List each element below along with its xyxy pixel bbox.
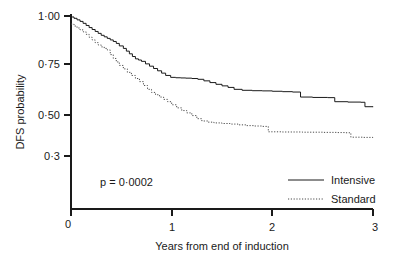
y-tick-label-2: 0·50 <box>38 109 60 121</box>
series-line-intensive <box>71 17 373 107</box>
y-tick-label-3: 0·3 <box>44 150 60 162</box>
x-tick-label-2: 2 <box>269 221 275 233</box>
y-axis-title: DFS probability <box>14 74 26 150</box>
x-axis-ticks: 0 1 2 3 <box>65 209 378 233</box>
y-axis-ticks: 1·00 0·75 0·50 0·3 <box>38 10 71 162</box>
legend-label-standard: Standard <box>331 193 376 205</box>
y-tick-label-1: 0·75 <box>38 58 60 70</box>
x-axis-title: Years from end of induction <box>155 240 289 252</box>
chart-legend: Intensive Standard <box>288 174 376 205</box>
chart-svg: 1·00 0·75 0·50 0·3 0 1 2 3 Years from en… <box>0 0 394 261</box>
y-tick-label-0: 1·00 <box>38 10 60 22</box>
legend-label-intensive: Intensive <box>331 174 375 186</box>
p-value-annotation: p = 0·0002 <box>100 176 153 188</box>
x-tick-label-0: 0 <box>65 218 71 230</box>
x-tick-label-1: 1 <box>169 221 175 233</box>
x-tick-label-3: 3 <box>372 221 378 233</box>
kaplan-meier-chart: 1·00 0·75 0·50 0·3 0 1 2 3 Years from en… <box>0 0 394 261</box>
